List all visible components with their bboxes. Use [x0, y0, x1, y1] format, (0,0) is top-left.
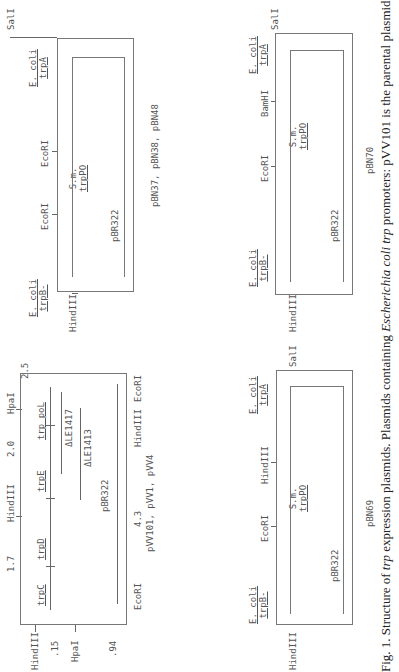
site-sali: SalI — [6, 8, 16, 30]
deletion-le1417: ΔLE1417 — [64, 409, 74, 447]
coord-2-0: 2.0 — [6, 441, 16, 457]
site-hindiii-left: HindIII — [30, 632, 40, 670]
coord-1-7: 1.7 — [6, 556, 16, 572]
site-ecori-bottom-right: EcoRI — [133, 375, 143, 402]
plasmid-name: pBN69 — [365, 500, 375, 527]
site-sali: SalI — [270, 8, 280, 30]
site-hindiii-left: HindIII — [288, 632, 298, 670]
site-ecori-bottom-left: EcoRI — [133, 583, 143, 610]
gene-ecoli-trpa: E. colitrpA — [248, 376, 268, 414]
vector-pbr322: pBR322 — [330, 549, 340, 582]
vector-line — [117, 384, 118, 604]
site-hindiii-bottom: HindIII — [133, 409, 143, 447]
site-hpai: HpaI — [6, 392, 16, 414]
site-hindiii: HindIII — [260, 446, 270, 484]
site-hpai-left: HpaI — [70, 640, 80, 662]
site-hindiii-left: HindIII — [68, 294, 78, 332]
caption-text: promoters: pVV101 is the parental plasmi… — [378, 0, 393, 229]
tick — [46, 425, 55, 426]
gene-ecoli-trpb: E. colitrpB- — [248, 586, 268, 624]
coord-094: .94 — [108, 641, 118, 657]
vector-pbr322: pBR322 — [100, 479, 110, 512]
site-ecori-1: EcoRI — [40, 203, 50, 230]
caption-italic: trp — [378, 555, 393, 570]
coord-015: .15 — [50, 641, 60, 657]
gene-trpd: trpD — [36, 538, 46, 560]
gene-trp-pol: trp poL — [36, 402, 46, 440]
tick — [10, 37, 57, 38]
site-hindiii-left: HindIII — [288, 294, 298, 332]
vector-pbr322: pBR322 — [330, 209, 340, 242]
size-4-3: 4.3 — [133, 511, 143, 527]
figure-caption: Fig. 1. Structure of trp expression plas… — [378, 0, 394, 672]
gene-trpc: trpC — [36, 584, 46, 606]
deletion-le1413: ΔLE1413 — [83, 429, 93, 467]
plasmid-name: pVV101, pVV1, pVV4 — [145, 454, 155, 552]
vector-bracket — [72, 57, 125, 277]
plasmid-name: pBN70 — [365, 147, 375, 174]
deletion-le1413-line — [80, 408, 81, 500]
gene-ecoli-trpa: E. colitrpA — [248, 36, 268, 74]
vector-pbr322: pBR322 — [110, 209, 120, 242]
tick — [72, 293, 78, 294]
figure-page: 1.7 HindIII 2.0 HpaI 2.5 HindIII .15 Hpa… — [0, 0, 399, 672]
gene-ecoli-trpa: E. colitrpA — [28, 49, 48, 87]
site-sali: SalI — [288, 345, 298, 367]
gene-ecoli-trpb: E. colitrpB- — [28, 279, 48, 317]
plasmid-name: pBN37, pBN38, pBN48 — [150, 104, 160, 207]
tick — [46, 566, 55, 567]
gene-ecoli-trpb: E. colitrpB- — [248, 249, 268, 287]
site-ecori: EcoRI — [260, 155, 270, 182]
caption-text: expression plasmids. Plasmids containing — [378, 332, 393, 555]
tick — [75, 625, 76, 632]
vector-bracket — [290, 50, 344, 282]
site-bamhi: BamHI — [260, 90, 270, 117]
site-ecori: EcoRI — [260, 515, 270, 542]
site-ecori-2: EcoRI — [40, 140, 50, 167]
tick — [35, 625, 36, 632]
deletion-le1417-line — [61, 392, 62, 474]
gene-trpe: trpE — [36, 470, 46, 492]
caption-text: Fig. 1. Structure of — [378, 570, 393, 672]
site-hindiii: HindIII — [6, 484, 16, 522]
caption-italic: Escherichia coli trp — [378, 229, 393, 332]
tick — [46, 498, 55, 499]
